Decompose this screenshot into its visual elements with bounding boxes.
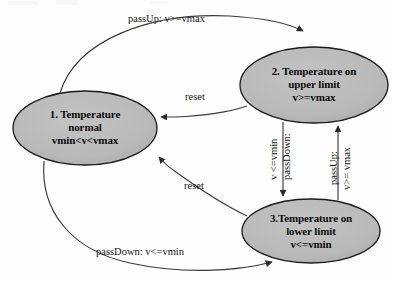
state-diagram-canvas: 1. Temperature normal vmin<v<vmax 2. Tem… (0, 0, 393, 281)
state-ellipse-temperature-normal[interactable] (13, 91, 157, 165)
edge-label-pass-up-normal-to-upper: passUp: v>=vmax (128, 13, 205, 25)
edge-label-reset-lower-to-normal: reset (184, 180, 204, 192)
edge-label-pass-up-lower-to-upper-line-2: v>= vmax (341, 147, 353, 190)
edge-label-pass-down-normal-to-lower: passDown: v<=vmin (96, 246, 184, 258)
edge-label-pass-down-upper-to-lower-line-2: v <=vmin (268, 139, 280, 180)
edge-reset-upper-to-normal (161, 106, 247, 117)
state-ellipse-temperature-upper-limit[interactable] (240, 47, 388, 123)
edge-label-reset-upper-to-normal: reset (185, 91, 205, 103)
diagram-svg (0, 0, 393, 281)
edge-label-pass-up-lower-to-upper-line-1: passUp: (328, 151, 340, 185)
state-ellipse-temperature-lower-limit[interactable] (242, 199, 380, 263)
edge-label-pass-down-upper-to-lower-line-1: passDown: (281, 133, 293, 180)
